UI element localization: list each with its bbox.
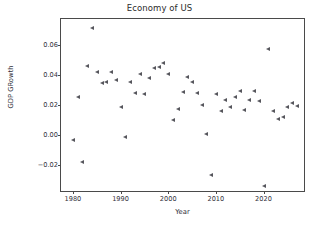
data-point-marker xyxy=(161,61,165,65)
data-point-marker xyxy=(223,98,227,102)
data-point-marker xyxy=(152,66,156,70)
data-point-marker xyxy=(242,108,246,112)
data-point-marker xyxy=(76,95,80,99)
data-point-marker xyxy=(276,117,280,121)
data-point-marker xyxy=(200,103,204,107)
data-point-marker xyxy=(204,132,208,136)
y-tick-label: 0.00 xyxy=(43,131,58,139)
data-point-marker xyxy=(185,75,189,79)
data-point-marker xyxy=(119,105,123,109)
data-point-marker xyxy=(195,91,199,95)
x-tick-label: 1990 xyxy=(112,195,129,203)
data-point-marker xyxy=(271,109,275,113)
data-point-marker xyxy=(176,107,180,111)
data-point-marker xyxy=(90,26,94,30)
x-tick-mark xyxy=(216,191,217,194)
data-point-marker xyxy=(262,184,266,188)
data-point-marker xyxy=(214,92,218,96)
data-point-marker xyxy=(138,72,142,76)
data-point-marker xyxy=(281,115,285,119)
data-point-marker xyxy=(147,76,151,80)
data-point-marker xyxy=(80,160,84,164)
data-point-marker xyxy=(238,89,242,93)
data-point-marker xyxy=(190,80,194,84)
data-point-marker xyxy=(100,81,104,85)
data-point-marker xyxy=(209,173,213,177)
data-point-marker xyxy=(123,135,127,139)
data-point-marker xyxy=(171,118,175,122)
y-tick-mark xyxy=(58,165,61,166)
x-tick-label: 1980 xyxy=(65,195,82,203)
data-point-marker xyxy=(219,109,223,113)
data-point-marker xyxy=(128,80,132,84)
data-point-marker xyxy=(247,98,251,102)
data-point-marker xyxy=(295,104,299,108)
y-tick-mark xyxy=(58,75,61,76)
y-axis-label: GDP GRowth xyxy=(7,52,15,122)
data-point-marker xyxy=(228,105,232,109)
data-point-marker xyxy=(166,72,170,76)
y-tick-mark xyxy=(58,135,61,136)
x-tick-mark xyxy=(73,191,74,194)
x-tick-label: 2000 xyxy=(160,195,177,203)
data-point-marker xyxy=(85,64,89,68)
data-point-marker xyxy=(157,65,161,69)
data-point-marker xyxy=(285,105,289,109)
data-point-marker xyxy=(104,80,108,84)
data-point-marker xyxy=(257,99,261,103)
y-tick-label: 0.02 xyxy=(43,101,58,109)
y-tick-label: −0.02 xyxy=(38,161,58,169)
y-tick-label: 0.04 xyxy=(43,71,58,79)
data-point-marker xyxy=(266,47,270,51)
data-point-marker xyxy=(181,90,185,94)
x-tick-label: 2010 xyxy=(207,195,224,203)
plot-axes: −0.020.000.020.040.061980199020002010202… xyxy=(60,18,305,192)
chart-figure: Economy of US −0.020.000.020.040.0619801… xyxy=(0,0,319,230)
data-point-marker xyxy=(114,78,118,82)
y-tick-mark xyxy=(58,45,61,46)
y-tick-mark xyxy=(58,105,61,106)
x-tick-label: 2020 xyxy=(255,195,272,203)
data-point-marker xyxy=(109,70,113,74)
data-point-marker xyxy=(133,91,137,95)
data-point-marker xyxy=(142,92,146,96)
data-point-marker xyxy=(233,95,237,99)
x-tick-mark xyxy=(264,191,265,194)
data-point-marker xyxy=(252,89,256,93)
data-point-marker xyxy=(71,138,75,142)
data-point-marker xyxy=(290,101,294,105)
y-tick-label: 0.06 xyxy=(43,41,58,49)
scatter-plot-area xyxy=(61,19,304,191)
x-axis-label: Year xyxy=(60,208,305,216)
x-tick-mark xyxy=(168,191,169,194)
data-point-marker xyxy=(95,70,99,74)
x-tick-mark xyxy=(121,191,122,194)
chart-title: Economy of US xyxy=(0,3,319,13)
